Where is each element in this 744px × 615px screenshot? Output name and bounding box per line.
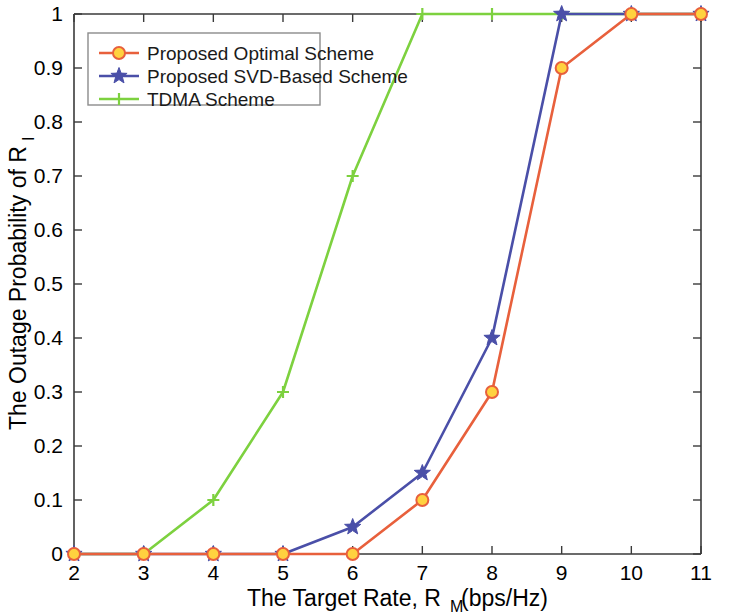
x-tick-label: 10	[620, 561, 643, 584]
y-tick-label: 0.1	[34, 488, 63, 511]
chart-canvas: 234567891011 00.10.20.30.40.50.60.70.80.…	[0, 0, 744, 615]
y-axis-title-main: The Outage Probability of R	[5, 146, 31, 430]
y-tick-label: 0	[51, 542, 63, 565]
y-axis-title-subscript: I	[20, 137, 37, 141]
data-point-marker-circle	[416, 494, 428, 506]
x-axis-title-tail: (bps/Hz)	[461, 585, 548, 611]
legend-label: TDMA Scheme	[147, 89, 275, 110]
legend-label: Proposed Optimal Scheme	[147, 43, 374, 64]
data-point-marker-circle	[138, 548, 150, 560]
y-tick-label: 0.8	[34, 110, 63, 133]
y-tick-label: 0.3	[34, 380, 63, 403]
data-point-marker-circle	[486, 386, 498, 398]
x-tick-label: 2	[68, 561, 80, 584]
y-tick-label: 1	[51, 2, 63, 25]
outage-probability-chart: 234567891011 00.10.20.30.40.50.60.70.80.…	[0, 0, 744, 615]
y-tick-label: 0.2	[34, 434, 63, 457]
x-tick-label: 8	[486, 561, 498, 584]
y-tick-labels: 00.10.20.30.40.50.60.70.80.91	[34, 2, 64, 565]
y-tick-label: 0.7	[34, 164, 63, 187]
x-tick-label: 4	[207, 561, 219, 584]
data-point-marker-circle	[347, 548, 359, 560]
legend-label: Proposed SVD-Based Scheme	[147, 66, 408, 87]
data-point-marker-circle	[113, 47, 125, 59]
x-tick-label: 6	[347, 561, 359, 584]
y-tick-label: 0.9	[34, 56, 63, 79]
x-tick-label: 5	[277, 561, 289, 584]
x-axis-title-main: The Target Rate, R	[247, 585, 441, 611]
y-tick-label: 0.5	[34, 272, 63, 295]
x-tick-labels: 234567891011	[68, 561, 712, 584]
data-point-marker-circle	[625, 8, 637, 20]
y-axis-title: The Outage Probability of R I	[5, 137, 37, 430]
x-tick-label: 3	[138, 561, 150, 584]
x-axis-title: The Target Rate, R M (bps/Hz)	[247, 585, 548, 615]
x-tick-label: 11	[690, 561, 712, 584]
x-tick-label: 9	[556, 561, 568, 584]
data-point-marker-circle	[556, 62, 568, 74]
y-tick-label: 0.6	[34, 218, 63, 241]
x-tick-label: 7	[416, 561, 428, 584]
data-point-marker-circle	[277, 548, 289, 560]
y-tick-label: 0.4	[34, 326, 64, 349]
data-point-marker-circle	[68, 548, 80, 560]
data-point-marker-circle	[695, 8, 707, 20]
data-point-marker-circle	[207, 548, 219, 560]
